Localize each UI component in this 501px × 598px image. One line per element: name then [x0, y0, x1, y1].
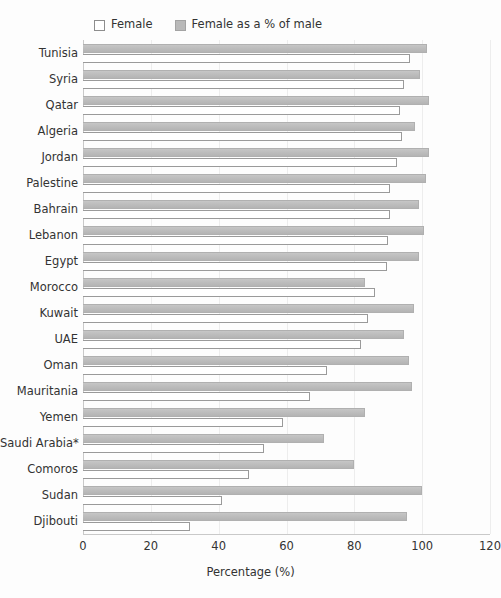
horizontal-bar-chart: Female Female as a % of male TunisiaSyri…	[0, 0, 501, 598]
x-tick-label: 120	[479, 539, 501, 553]
y-axis-label: Lebanon	[0, 229, 78, 241]
x-tick-label: 20	[144, 539, 159, 553]
y-axis-label: Djibouti	[0, 515, 78, 527]
y-axis-label: Oman	[0, 359, 78, 371]
y-axis-label: Kuwait	[0, 307, 78, 319]
bar-row	[83, 95, 490, 121]
bar-row	[83, 433, 490, 459]
x-tick-label: 40	[211, 539, 226, 553]
y-axis-label: Jordan	[0, 151, 78, 163]
bar-percent-of-male[interactable]	[83, 382, 412, 391]
bar-female[interactable]	[83, 366, 327, 375]
bar-percent-of-male[interactable]	[83, 304, 414, 313]
y-axis-label: Egypt	[0, 255, 78, 267]
x-tick-label: 0	[79, 539, 86, 553]
legend-label-female: Female	[111, 19, 153, 31]
bar-row	[83, 329, 490, 355]
legend-item-female-as-percent-of-male[interactable]: Female as a % of male	[175, 19, 322, 31]
bar-percent-of-male[interactable]	[83, 148, 429, 157]
y-axis-label: Qatar	[0, 99, 78, 111]
legend-label-female-as-percent-of-male: Female as a % of male	[192, 19, 322, 31]
bar-female[interactable]	[83, 288, 375, 297]
bar-percent-of-male[interactable]	[83, 252, 419, 261]
bar-female[interactable]	[83, 496, 222, 505]
bar-percent-of-male[interactable]	[83, 512, 407, 521]
bar-row	[83, 251, 490, 277]
bar-female[interactable]	[83, 392, 310, 401]
y-axis-label: Palestine	[0, 177, 78, 189]
x-axis-tick-labels: 020406080100120	[0, 539, 501, 555]
bar-female[interactable]	[83, 210, 390, 219]
bar-female[interactable]	[83, 184, 390, 193]
bar-female[interactable]	[83, 236, 388, 245]
legend-item-female[interactable]: Female	[94, 19, 153, 31]
bar-female[interactable]	[83, 444, 264, 453]
bar-row	[83, 147, 490, 173]
x-tick-label: 60	[279, 539, 294, 553]
bar-row	[83, 225, 490, 251]
y-axis-category-labels: TunisiaSyriaQatarAlgeriaJordanPalestineB…	[0, 40, 78, 534]
bar-row	[83, 485, 490, 511]
bar-female[interactable]	[83, 418, 283, 427]
gridline-120	[490, 40, 491, 534]
bar-female[interactable]	[83, 262, 387, 271]
plot-area	[83, 40, 490, 534]
bar-female[interactable]	[83, 54, 410, 63]
bar-row	[83, 459, 490, 485]
y-axis-label: Mauritania	[0, 385, 78, 397]
y-axis-label: Bahrain	[0, 203, 78, 215]
y-axis-label: UAE	[0, 333, 78, 345]
bar-female[interactable]	[83, 132, 402, 141]
bar-percent-of-male[interactable]	[83, 44, 427, 53]
y-axis-label: Saudi Arabia*	[0, 437, 78, 449]
y-axis-label: Comoros	[0, 463, 78, 475]
bar-percent-of-male[interactable]	[83, 460, 354, 469]
bar-row	[83, 277, 490, 303]
bar-row	[83, 511, 490, 537]
y-axis-label: Algeria	[0, 125, 78, 137]
x-axis-title: Percentage (%)	[0, 565, 501, 579]
x-tick-label: 100	[411, 539, 433, 553]
chart-legend: Female Female as a % of male	[0, 13, 501, 37]
bar-percent-of-male[interactable]	[83, 356, 409, 365]
legend-swatch-female-icon	[94, 20, 105, 31]
bar-row	[83, 43, 490, 69]
bar-row	[83, 69, 490, 95]
bar-percent-of-male[interactable]	[83, 434, 324, 443]
bar-row	[83, 303, 490, 329]
bar-female[interactable]	[83, 314, 368, 323]
bar-rows	[83, 40, 490, 534]
bar-row	[83, 355, 490, 381]
bar-female[interactable]	[83, 106, 400, 115]
bar-row	[83, 381, 490, 407]
bar-percent-of-male[interactable]	[83, 486, 422, 495]
bar-row	[83, 199, 490, 225]
y-axis-label: Sudan	[0, 489, 78, 501]
bar-percent-of-male[interactable]	[83, 200, 419, 209]
bar-percent-of-male[interactable]	[83, 96, 429, 105]
bar-percent-of-male[interactable]	[83, 70, 420, 79]
y-axis-label: Morocco	[0, 281, 78, 293]
bar-female[interactable]	[83, 340, 361, 349]
bar-percent-of-male[interactable]	[83, 174, 426, 183]
bar-percent-of-male[interactable]	[83, 408, 365, 417]
bar-row	[83, 407, 490, 433]
y-axis-label: Syria	[0, 73, 78, 85]
bar-female[interactable]	[83, 80, 404, 89]
legend-swatch-percent-icon	[175, 20, 186, 31]
bar-female[interactable]	[83, 470, 249, 479]
y-axis-label: Tunisia	[0, 47, 78, 59]
bar-percent-of-male[interactable]	[83, 278, 365, 287]
bar-row	[83, 121, 490, 147]
x-tick-label: 80	[347, 539, 362, 553]
bar-row	[83, 173, 490, 199]
bar-female[interactable]	[83, 158, 397, 167]
bar-percent-of-male[interactable]	[83, 226, 424, 235]
bar-percent-of-male[interactable]	[83, 330, 404, 339]
bar-female[interactable]	[83, 522, 190, 531]
bar-percent-of-male[interactable]	[83, 122, 415, 131]
x-axis-line	[83, 534, 490, 535]
y-axis-label: Yemen	[0, 411, 78, 423]
